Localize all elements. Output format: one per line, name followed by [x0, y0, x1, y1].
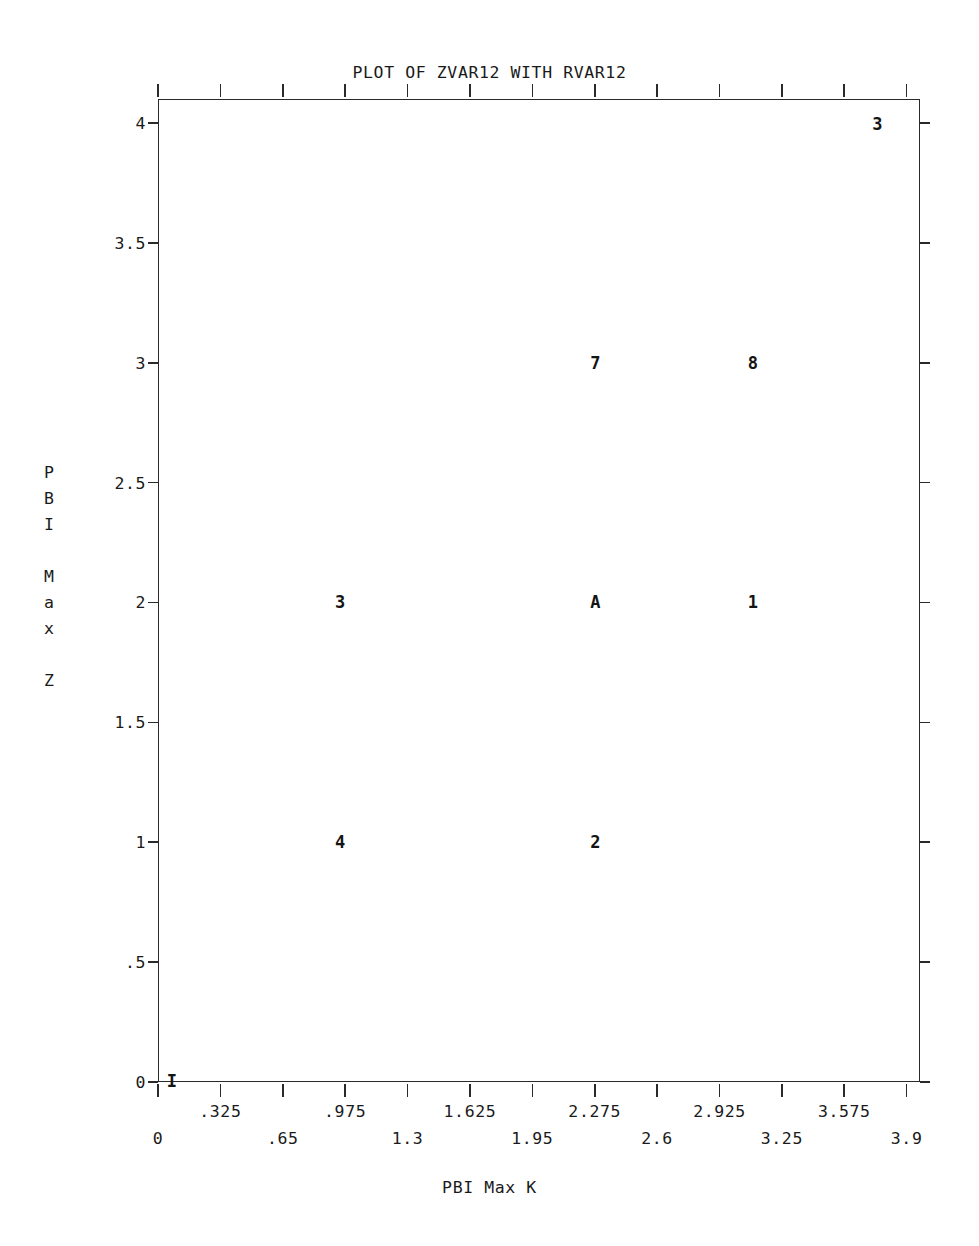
- y-axis-title-char: B: [44, 486, 74, 512]
- x-axis-tick-label-lower: 2.6: [641, 1129, 673, 1148]
- y-axis-tick-left: [148, 722, 158, 724]
- x-axis-tick-bottom: [344, 1084, 346, 1097]
- x-axis-tick-bottom: [843, 1084, 845, 1097]
- x-axis-tick-bottom: [469, 1084, 471, 1097]
- x-axis-tick-label-upper: 2.275: [568, 1102, 621, 1121]
- y-axis-tick-right: [920, 362, 930, 364]
- x-axis-tick-top: [344, 84, 346, 97]
- x-axis-tick-bottom: [157, 1084, 159, 1097]
- y-axis-tick-label: .5: [48, 953, 146, 972]
- y-axis-title-char: P: [44, 460, 74, 486]
- x-axis-tick-top: [220, 84, 222, 97]
- y-axis-title-char: x: [44, 616, 74, 642]
- x-axis-tick-label-upper: .325: [199, 1102, 241, 1121]
- page-title: PLOT OF ZVAR12 WITH RVAR12: [0, 63, 979, 82]
- y-axis-tick-label: 3: [48, 353, 146, 372]
- x-axis-tick-label-lower: 1.95: [511, 1129, 553, 1148]
- x-axis-tick-label-lower: 3.9: [891, 1129, 923, 1148]
- y-axis-tick-right: [920, 722, 930, 724]
- y-axis-tick-label: 4: [48, 113, 146, 132]
- y-axis-tick-left: [148, 482, 158, 484]
- y-axis-tick-left: [148, 242, 158, 244]
- x-axis-tick-bottom: [656, 1084, 658, 1097]
- y-axis-tick-label: 1.5: [48, 713, 146, 732]
- x-axis-tick-top: [719, 84, 721, 97]
- y-axis-tick-left: [148, 602, 158, 604]
- x-axis-tick-top: [157, 84, 159, 97]
- x-axis-tick-label-lower: 1.3: [392, 1129, 424, 1148]
- y-axis-tick-label: 3.5: [48, 233, 146, 252]
- y-axis-tick-left: [148, 362, 158, 364]
- x-axis-tick-label-lower: 3.25: [761, 1129, 803, 1148]
- y-axis-tick-right: [920, 602, 930, 604]
- y-axis-tick-left: [148, 961, 158, 963]
- y-axis-tick-left: [148, 122, 158, 124]
- x-axis-tick-top: [843, 84, 845, 97]
- scatter-plot-figure: PLOT OF ZVAR12 WITH RVAR12 43.532.521.51…: [0, 0, 979, 1246]
- x-axis-tick-top: [282, 84, 284, 97]
- y-axis-tick-left: [148, 1081, 158, 1083]
- x-axis-tick-top: [781, 84, 783, 97]
- y-axis-tick-right: [920, 122, 930, 124]
- y-axis-tick-right: [920, 1081, 930, 1083]
- x-axis-tick-label-lower: .65: [267, 1129, 299, 1148]
- x-axis-tick-top: [407, 84, 409, 97]
- y-axis-tick-label: 1: [48, 833, 146, 852]
- x-axis-tick-top: [594, 84, 596, 97]
- data-point-marker: 1: [748, 592, 759, 612]
- x-axis-tick-bottom: [781, 1084, 783, 1097]
- y-axis-tick-right: [920, 841, 930, 843]
- x-axis-tick-top: [469, 84, 471, 97]
- y-axis-tick-right: [920, 482, 930, 484]
- data-point-marker: 4: [335, 832, 346, 852]
- x-axis-tick-top: [532, 84, 534, 97]
- y-axis-title-char: M: [44, 564, 74, 590]
- y-axis-tick-right: [920, 961, 930, 963]
- x-axis-tick-top: [906, 84, 908, 97]
- x-axis-tick-label-lower: 0: [153, 1129, 164, 1148]
- x-axis-tick-label-upper: 2.925: [693, 1102, 746, 1121]
- y-axis-title: PBI Max Z: [44, 460, 74, 694]
- x-axis-title: PBI Max K: [0, 1178, 979, 1197]
- x-axis-tick-bottom: [906, 1084, 908, 1097]
- y-axis-tick-left: [148, 841, 158, 843]
- data-point-marker: I: [167, 1071, 178, 1091]
- y-axis-title-char: [44, 538, 74, 564]
- x-axis-tick-bottom: [594, 1084, 596, 1097]
- y-axis-title-char: Z: [44, 668, 74, 694]
- x-axis-tick-label-upper: .975: [324, 1102, 366, 1121]
- y-axis-tick-label: 0: [48, 1073, 146, 1092]
- x-axis-tick-label-upper: 3.575: [818, 1102, 871, 1121]
- y-axis-title-char: [44, 642, 74, 668]
- x-axis-tick-bottom: [282, 1084, 284, 1097]
- y-axis-title-char: I: [44, 512, 74, 538]
- data-point-marker: 2: [590, 832, 601, 852]
- data-point-marker: 7: [590, 353, 601, 373]
- y-axis-tick-right: [920, 242, 930, 244]
- x-axis-tick-top: [656, 84, 658, 97]
- x-axis-tick-bottom: [407, 1084, 409, 1097]
- data-point-marker: 8: [748, 353, 759, 373]
- data-point-marker: 3: [872, 114, 883, 134]
- x-axis-tick-bottom: [220, 1084, 222, 1097]
- y-axis-title-char: a: [44, 590, 74, 616]
- x-axis-tick-bottom: [719, 1084, 721, 1097]
- plot-area-frame: [158, 99, 920, 1082]
- data-point-marker: A: [590, 592, 601, 612]
- data-point-marker: 3: [335, 592, 346, 612]
- x-axis-tick-bottom: [532, 1084, 534, 1097]
- x-axis-tick-label-upper: 1.625: [444, 1102, 497, 1121]
